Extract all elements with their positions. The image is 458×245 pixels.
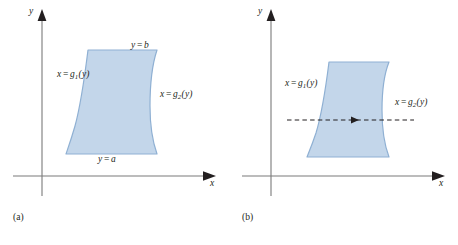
left-label-sub: 1 bbox=[75, 73, 79, 80]
bottom-label-rhs: a bbox=[111, 154, 116, 164]
left-label-arg: (y) bbox=[79, 69, 90, 79]
y-axis-label: y bbox=[258, 6, 262, 16]
region-shaded-area bbox=[307, 62, 389, 157]
y-axis-label: y bbox=[29, 6, 33, 16]
left-label-op: = bbox=[61, 69, 70, 79]
figure-root: y x y=b y=a x=g1(y) x=g2(y) (a) bbox=[0, 0, 458, 245]
right-label-op: = bbox=[164, 89, 173, 99]
panel-b-caption: (b) bbox=[242, 212, 253, 222]
region-shaded-area bbox=[66, 50, 157, 154]
top-boundary-label: y=b bbox=[131, 40, 149, 50]
panel-a-caption: (a) bbox=[13, 212, 24, 222]
panel-a-graphic bbox=[0, 0, 229, 245]
left-label-sub: 1 bbox=[303, 82, 307, 89]
left-label-arg: (y) bbox=[307, 78, 318, 88]
right-label-sub: 2 bbox=[178, 93, 182, 100]
y-axis-arrowhead bbox=[267, 9, 276, 21]
top-label-rhs: b bbox=[144, 40, 149, 50]
x-axis-label: x bbox=[439, 178, 443, 188]
bottom-boundary-label: y=a bbox=[98, 154, 116, 164]
right-boundary-label: x=g2(y) bbox=[395, 97, 428, 107]
left-boundary-label: x=g1(y) bbox=[285, 78, 318, 88]
y-axis-arrowhead bbox=[38, 9, 47, 21]
right-label-sub: 2 bbox=[413, 101, 417, 108]
left-boundary-label: x=g1(y) bbox=[57, 69, 90, 79]
x-axis-label: x bbox=[210, 178, 214, 188]
right-label-arg: (y) bbox=[182, 89, 193, 99]
panel-a: y x y=b y=a x=g1(y) x=g2(y) (a) bbox=[0, 0, 229, 245]
panel-b: y x x=g1(y) x=g2(y) (b) bbox=[229, 0, 458, 245]
right-label-arg: (y) bbox=[417, 97, 428, 107]
top-label-op: = bbox=[135, 40, 144, 50]
bottom-label-op: = bbox=[102, 154, 111, 164]
left-label-op: = bbox=[289, 78, 298, 88]
panel-b-graphic bbox=[229, 0, 458, 245]
right-boundary-label: x=g2(y) bbox=[160, 89, 193, 99]
right-label-op: = bbox=[399, 97, 408, 107]
